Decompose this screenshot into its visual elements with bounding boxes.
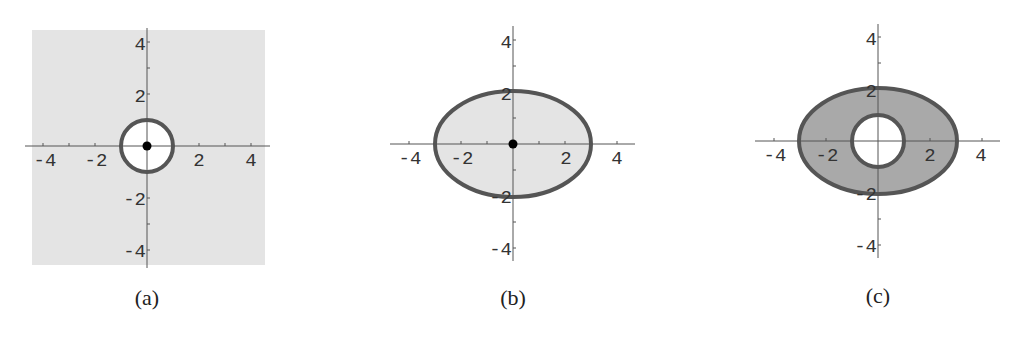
x-tick-label: 4: [611, 148, 622, 170]
y-tick-label: 4: [135, 34, 146, 56]
y-tick-label: -4: [489, 239, 512, 261]
panel-caption: (c): [866, 283, 890, 308]
y-tick-label: 2: [866, 81, 877, 103]
y-tick-label: 2: [135, 86, 146, 108]
y-tick-label: -4: [123, 241, 146, 263]
x-tick-label: 2: [924, 145, 935, 167]
panel-caption: (a): [135, 285, 159, 310]
y-tick-label: 4: [501, 32, 512, 54]
x-tick-label: -2: [451, 148, 474, 170]
x-tick-label: 4: [245, 150, 256, 172]
y-tick-label: -2: [854, 184, 877, 206]
origin-point: [509, 140, 518, 149]
x-tick-label: -4: [764, 145, 787, 167]
figure: -4 -2 2 4 4 2 -2 -4 (a) -4 -2 2 4 4 2: [0, 0, 1027, 339]
x-tick-label: 4: [975, 145, 986, 167]
panel-c: -4 -2 2 4 4 2 -2 -4 (c): [755, 24, 1000, 308]
x-tick-label: 2: [193, 150, 204, 172]
y-tick-label: -2: [123, 189, 146, 211]
x-tick-label: -4: [34, 150, 57, 172]
origin-point: [143, 142, 152, 151]
x-tick-label: -4: [399, 148, 422, 170]
x-tick-label: -2: [816, 145, 839, 167]
panel-caption: (b): [500, 285, 526, 310]
y-tick-label: -4: [854, 236, 877, 258]
panel-a: -4 -2 2 4 4 2 -2 -4 (a): [25, 28, 270, 310]
panel-b: -4 -2 2 4 4 2 -2 -4 (b): [390, 26, 635, 310]
y-tick-label: -2: [489, 187, 512, 209]
x-tick-label: 2: [560, 148, 571, 170]
x-tick-label: -2: [85, 150, 108, 172]
y-tick-label: 2: [501, 84, 512, 106]
y-tick-label: 4: [866, 29, 877, 51]
